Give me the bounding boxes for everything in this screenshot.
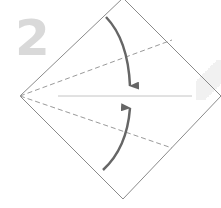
upper-valley-fold-line: [20, 40, 172, 96]
paper-square-outline: [20, 0, 221, 199]
arrow-down-icon: [106, 17, 130, 86]
arrow-up-icon: [103, 108, 130, 170]
origami-diagram: 2: [0, 0, 221, 208]
fold-diagram-svg: [0, 0, 221, 208]
lower-valley-fold-line: [20, 96, 172, 148]
